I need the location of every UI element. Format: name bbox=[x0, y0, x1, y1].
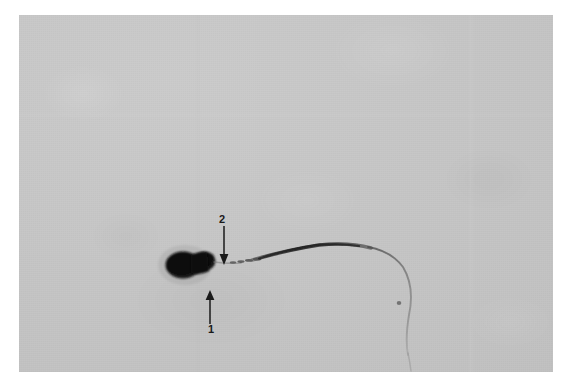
sperm-tail-endpiece bbox=[408, 353, 411, 371]
tail-node bbox=[397, 301, 402, 305]
annotation-arrow-2-down bbox=[217, 226, 231, 266]
head-neck-bridge bbox=[191, 252, 209, 274]
annotation-label-1: 1 bbox=[208, 324, 214, 335]
sperm-midpiece-core bbox=[259, 244, 359, 258]
screenshot-root: 2 1 bbox=[0, 0, 573, 390]
micrograph-plate: 2 1 bbox=[19, 15, 553, 372]
spermatozoon-figure bbox=[19, 15, 553, 372]
sperm-tail-principal bbox=[368, 247, 411, 355]
annotation-label-2: 2 bbox=[219, 214, 225, 225]
annotation-arrow-1-up bbox=[203, 290, 217, 324]
